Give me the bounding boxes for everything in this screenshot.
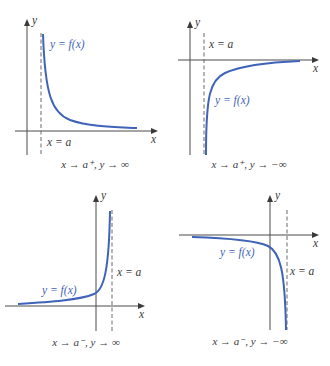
asymptote-label: x = a xyxy=(116,266,142,278)
panel-bottom-right: y x x = a y = f(x) x → a⁻, y → −∞ xyxy=(179,189,319,347)
asymptote-label: x = a xyxy=(289,265,315,277)
x-axis-label: x xyxy=(138,308,145,320)
caption: x → a⁻, y → −∞ xyxy=(211,335,287,347)
panel-top-left: y x x = a y = f(x) x → a⁺, y → ∞ xyxy=(15,14,158,170)
caption: x → a⁺, y → ∞ xyxy=(60,158,129,170)
y-axis-arrow-icon xyxy=(24,19,30,26)
panel-top-right: y x x = a y = f(x) x → a⁺, y → −∞ xyxy=(178,16,319,170)
x-axis-label: x xyxy=(312,237,319,249)
y-axis-label: y xyxy=(274,189,281,202)
asymptote-label: x = a xyxy=(208,38,234,50)
caption: x → a⁺, y → −∞ xyxy=(210,158,286,170)
x-axis-label: x xyxy=(312,62,319,74)
y-axis-arrow-icon xyxy=(93,195,99,202)
y-axis-arrow-icon xyxy=(187,21,193,28)
y-axis-label: y xyxy=(194,16,201,29)
curve-label: y = f(x) xyxy=(214,94,250,107)
vertical-asymptote-diagrams: y x x = a y = f(x) x → a⁺, y → ∞ y x x =… xyxy=(0,0,330,366)
panel-bottom-left: y x x = a y = f(x) x → a⁻, y → ∞ xyxy=(5,189,145,348)
curve-label: y = f(x) xyxy=(41,284,77,297)
y-axis-label: y xyxy=(100,189,107,202)
caption: x → a⁻, y → ∞ xyxy=(51,336,120,348)
asymptote-label: x = a xyxy=(46,136,72,148)
y-axis-arrow-icon xyxy=(267,195,273,202)
curve-label: y = f(x) xyxy=(219,246,255,259)
y-axis-label: y xyxy=(31,14,38,27)
function-curve xyxy=(206,61,300,155)
curve-label: y = f(x) xyxy=(49,38,85,51)
x-axis-label: x xyxy=(150,133,157,145)
